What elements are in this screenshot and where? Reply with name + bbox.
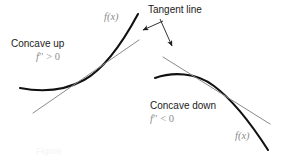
tangent-arrow-right-icon [160,19,172,46]
concave-down-label: Concave down [150,101,216,112]
fpp-positive-relation: > 0 [44,51,60,62]
figure-caption: Figure [36,147,62,157]
function-label-left: f(x) [104,11,119,22]
tangent-arrow-left-icon [143,21,163,30]
function-label-right: f(x) [235,130,250,141]
right-tangent-line [163,57,270,124]
tangent-line-label: Tangent line [148,5,202,16]
concavity-figure: Concave up f′′ > 0 Concave down f′′ < 0 … [0,0,282,160]
concave-up-label: Concave up [11,39,64,50]
fpp-negative-relation: < 0 [158,113,174,124]
second-derivative-negative-label: f′′ < 0 [150,113,174,124]
second-derivative-positive-label: f′′ > 0 [36,51,60,62]
